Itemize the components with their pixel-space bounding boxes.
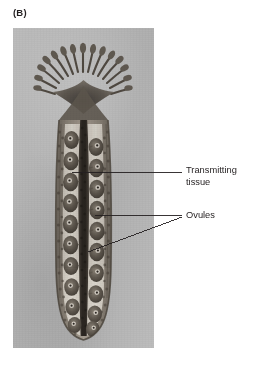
label-transmitting-tissue: Transmitting tissue — [186, 165, 237, 188]
film-grain-overlay — [13, 28, 154, 348]
figure-panel-b: (B) — [0, 0, 256, 371]
micrograph-image — [13, 28, 154, 348]
label-ovules: Ovules — [186, 210, 215, 222]
panel-label: (B) — [13, 8, 27, 18]
